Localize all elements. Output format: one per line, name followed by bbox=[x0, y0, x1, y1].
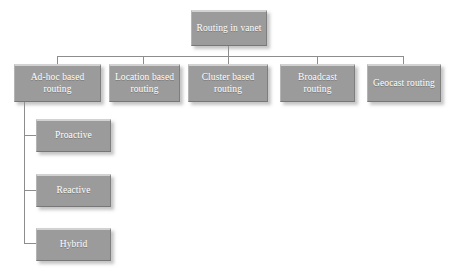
node-geocast-routing[interactable]: Geocast routing bbox=[367, 64, 441, 102]
node-adhoc-based-routing[interactable]: Ad-hoc based routing bbox=[14, 64, 101, 102]
diagram-canvas: Routing in vanet Ad-hoc based routing Lo… bbox=[0, 0, 454, 273]
node-reactive[interactable]: Reactive bbox=[36, 174, 111, 207]
node-cluster-based-routing[interactable]: Cluster based routing bbox=[188, 64, 268, 102]
node-broadcast-routing[interactable]: Broadcast routing bbox=[280, 64, 355, 102]
node-proactive[interactable]: Proactive bbox=[36, 119, 111, 152]
node-geocast-routing-label: Geocast routing bbox=[370, 78, 438, 90]
node-root[interactable]: Routing in vanet bbox=[191, 10, 267, 46]
node-hybrid-label: Hybrid bbox=[57, 239, 91, 251]
node-location-based-routing[interactable]: Location based routing bbox=[109, 64, 180, 102]
node-reactive-label: Reactive bbox=[53, 185, 93, 197]
node-location-based-routing-label: Location based routing bbox=[110, 72, 179, 95]
node-cluster-based-routing-label: Cluster based routing bbox=[189, 72, 267, 95]
node-broadcast-routing-label: Broadcast routing bbox=[281, 72, 354, 95]
node-root-label: Routing in vanet bbox=[194, 23, 265, 35]
node-adhoc-based-routing-label: Ad-hoc based routing bbox=[15, 72, 100, 95]
node-proactive-label: Proactive bbox=[52, 130, 95, 142]
node-hybrid[interactable]: Hybrid bbox=[36, 228, 111, 261]
